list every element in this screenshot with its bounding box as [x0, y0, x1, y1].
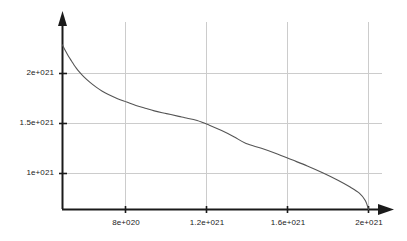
chart-plot-area [0, 0, 407, 241]
y-axis-line [58, 11, 67, 209]
grid-vertical [126, 22, 369, 208]
xtick-label-2e21: 2e+021 [333, 218, 405, 227]
ytick-label-2e21: 2e+021 [4, 68, 54, 77]
chart-container: 2e+021 1.5e+021 1e+021 8e+020 1.2e+021 1… [0, 0, 407, 241]
xtick-label-8e20: 8e+020 [90, 218, 162, 227]
ytick-label-1e21: 1e+021 [4, 168, 54, 177]
grid-horizontal [62, 74, 382, 174]
y-axis-arrow-icon [58, 11, 67, 26]
data-series-curve [63, 45, 369, 210]
xtick-label-1p2e21: 1.2e+021 [171, 218, 243, 227]
xtick-label-1p6e21: 1.6e+021 [252, 218, 324, 227]
ytick-label-1p5e21: 1.5e+021 [4, 118, 54, 127]
x-axis-line [62, 204, 394, 215]
x-axis-arrow-icon [378, 204, 394, 215]
